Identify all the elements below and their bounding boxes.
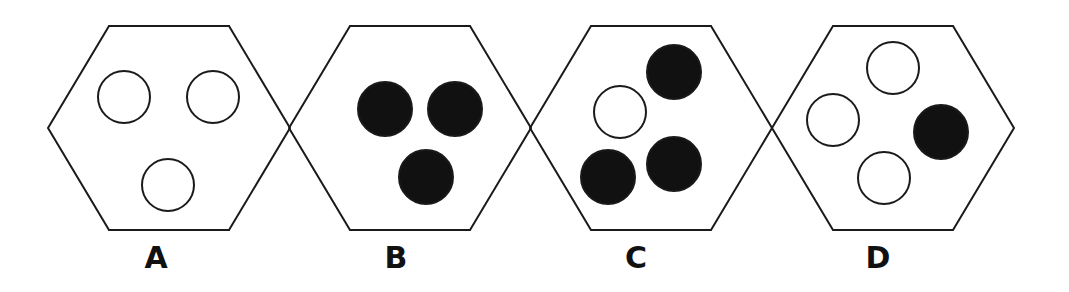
option-label-a: A [126,240,186,275]
empty-circle [594,86,646,138]
filled-circle [428,82,482,136]
filled-circle [581,150,635,204]
option-b [289,26,531,230]
filled-circle [358,82,412,136]
empty-circle [98,71,150,123]
filled-circle [647,45,701,99]
empty-circle [807,94,859,146]
empty-circle [867,42,919,94]
option-d [772,26,1014,230]
filled-circle [647,137,701,191]
hexagon-shape [48,26,290,230]
filled-circle [399,150,453,204]
option-c [530,26,772,230]
option-label-d: D [848,240,908,275]
empty-circle [858,152,910,204]
empty-circle [142,159,194,211]
option-a [48,26,290,230]
option-label-c: C [606,240,666,275]
empty-circle [187,71,239,123]
filled-circle [914,105,968,159]
option-label-b: B [366,240,426,275]
